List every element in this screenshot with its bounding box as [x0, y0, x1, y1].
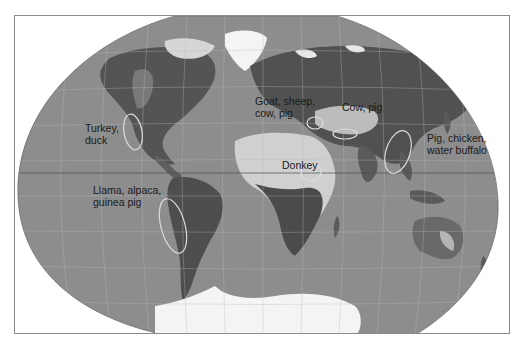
- label-near-east: Goat, sheep, cow, pig: [255, 95, 315, 119]
- world-map: [15, 16, 510, 334]
- map-frame: Turkey, duck Llama, alpaca, guinea pig G…: [14, 15, 510, 334]
- label-east-asia: Pig, chicken, water buffalo: [427, 132, 487, 156]
- figure-caption-cutoff: [14, 340, 134, 349]
- label-north-america: Turkey, duck: [85, 122, 119, 146]
- label-africa: Donkey: [282, 159, 318, 171]
- label-south-america: Llama, alpaca, guinea pig: [93, 184, 161, 208]
- label-central-asia: Cow, pig: [342, 101, 382, 113]
